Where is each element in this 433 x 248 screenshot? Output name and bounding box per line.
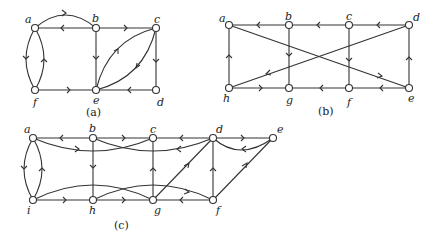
node-label: f — [346, 96, 353, 109]
edge-a-f — [26, 28, 35, 90]
arrow-icon — [242, 146, 246, 152]
node-label: d — [413, 11, 420, 24]
node-label: b — [89, 122, 96, 135]
node-label: f — [32, 96, 39, 109]
edge-f-e — [213, 138, 273, 200]
node-label: h — [223, 92, 230, 105]
node-a — [226, 22, 233, 29]
graph-a: a b c d e f (a) — [23, 10, 164, 119]
arrow-icon — [377, 73, 382, 78]
node-e — [406, 85, 413, 92]
node-label: c — [346, 10, 352, 23]
node-label: f — [215, 204, 222, 217]
node-g — [150, 197, 157, 204]
graph-b: a b c d h g f e (b) — [219, 10, 420, 118]
node-label: b — [92, 12, 99, 25]
node-label: h — [89, 204, 96, 217]
edge-f-a — [35, 28, 44, 90]
graph-figure: a b c d e f (a) a — [0, 0, 433, 248]
node-label: c — [154, 13, 160, 26]
node-h — [226, 85, 233, 92]
node-label: e — [277, 123, 284, 136]
node-label: a — [219, 12, 226, 25]
node-label: d — [157, 96, 164, 109]
node-f — [210, 197, 217, 204]
node-label: e — [408, 92, 415, 105]
node-h — [90, 197, 97, 204]
node-g — [286, 85, 293, 92]
node-d — [406, 22, 413, 29]
node-a — [32, 25, 39, 32]
edge-a-i — [24, 138, 33, 200]
node-label: c — [150, 123, 156, 136]
caption: (b) — [318, 105, 334, 118]
node-i — [30, 197, 37, 204]
node-f — [346, 85, 353, 92]
node-label: b — [285, 10, 292, 23]
graph-c: a b c d e i h g f (c) — [21, 122, 284, 232]
node-e — [270, 135, 277, 142]
edge-c-e — [96, 28, 156, 90]
node-f — [32, 87, 39, 94]
node-label: a — [25, 13, 32, 26]
node-label: i — [27, 204, 31, 217]
node-e — [93, 87, 100, 94]
node-d — [153, 87, 160, 94]
node-label: g — [286, 94, 293, 107]
edge-e-c — [96, 28, 156, 90]
node-label: g — [154, 204, 161, 217]
node-b — [93, 25, 100, 32]
arrow-icon — [75, 146, 79, 152]
caption: (c) — [114, 219, 129, 232]
node-b — [90, 135, 97, 142]
edge-a-b — [35, 15, 96, 28]
arrow-icon — [266, 70, 271, 75]
caption: (a) — [86, 106, 101, 119]
node-label: a — [24, 123, 31, 136]
node-label: d — [216, 123, 223, 136]
